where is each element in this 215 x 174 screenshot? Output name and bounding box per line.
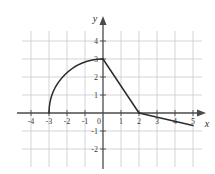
x-tick-labels: -4 -3 -2 -1 0 1 2 3 4 5 (28, 117, 195, 126)
shallow-tail-line-segment (139, 113, 193, 126)
x-tick-label: -1 (82, 117, 89, 126)
vertical-gridlines (31, 31, 193, 167)
x-tick-label: 3 (155, 117, 159, 126)
y-tick-label: -2 (91, 145, 98, 154)
y-tick-label: 2 (94, 73, 98, 82)
y-tick-label: -1 (91, 127, 98, 136)
graph-figure: -4 -3 -2 -1 0 1 2 3 4 5 4 3 2 1 -1 - (0, 0, 215, 174)
x-tick-label-origin: 0 (97, 117, 101, 126)
coordinate-plane-plot: -4 -3 -2 -1 0 1 2 3 4 5 4 3 2 1 -1 - (0, 0, 215, 174)
x-tick-label: 1 (119, 117, 123, 126)
y-axis (100, 16, 107, 169)
quarter-circle-arc-segment (49, 59, 103, 113)
y-axis-label: y (92, 13, 98, 24)
x-tick-label: -4 (28, 117, 35, 126)
y-tick-labels: 4 3 2 1 -1 -2 (91, 37, 98, 154)
x-tick-label: -2 (64, 117, 71, 126)
x-tick-label: -3 (46, 117, 53, 126)
x-axis (17, 110, 206, 117)
y-tick-label: 4 (94, 37, 98, 46)
x-axis-label: x (204, 118, 210, 129)
x-tick-label: 2 (137, 117, 141, 126)
y-tick-label: 1 (94, 91, 98, 100)
